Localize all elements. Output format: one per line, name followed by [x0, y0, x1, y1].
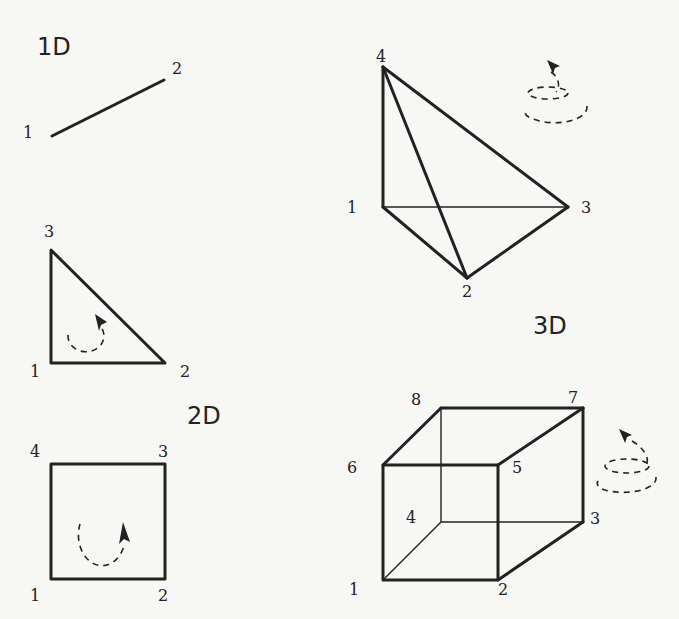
arrowhead-icon [95, 314, 107, 331]
diagram-1d: 1D 1 2 [23, 33, 182, 142]
node-4: 4 [376, 47, 386, 66]
node-5: 5 [512, 458, 522, 477]
arrowhead-icon [119, 522, 130, 544]
node-1: 1 [30, 362, 40, 381]
quad-element [51, 464, 165, 579]
element-diagram: 1D 1 2 3 1 2 2D 4 3 1 2 4 1 3 2 [0, 0, 679, 619]
line-element [52, 80, 164, 136]
label-2d: 2D [187, 402, 221, 430]
diagram-3d-hexahedron: 8 7 6 5 4 3 1 2 [347, 388, 656, 599]
node-4: 4 [406, 508, 416, 527]
node-1: 1 [30, 586, 40, 605]
node-1: 1 [23, 123, 33, 142]
diagram-3d-tetrahedron: 4 1 3 2 [347, 47, 591, 301]
node-2: 2 [498, 580, 508, 599]
node-3: 3 [44, 222, 54, 241]
diagram-2d-quad: 4 3 1 2 [30, 442, 168, 605]
label-1d: 1D [37, 33, 71, 61]
node-3: 3 [581, 198, 591, 217]
node-3: 3 [590, 509, 600, 528]
node-4: 4 [30, 442, 40, 461]
node-2: 2 [180, 362, 190, 381]
node-2: 2 [462, 282, 472, 301]
node-8: 8 [411, 390, 421, 409]
node-6: 6 [347, 458, 357, 477]
node-1: 1 [347, 198, 357, 217]
node-3: 3 [158, 442, 168, 461]
diagram-2d-triangle: 3 1 2 [30, 222, 190, 381]
label-3d: 3D [533, 312, 567, 340]
triangle-element [51, 250, 165, 363]
rotation-arrow-icon [68, 327, 104, 352]
rotation-3d-icon [525, 60, 587, 123]
node-7: 7 [568, 388, 578, 407]
rotation-3d-icon [597, 429, 656, 492]
node-2: 2 [158, 586, 168, 605]
node-2: 2 [172, 59, 182, 78]
node-1: 1 [349, 580, 359, 599]
rotation-arrow-icon [78, 524, 124, 566]
